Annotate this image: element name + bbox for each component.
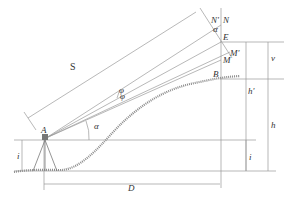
label-phi-2: φ [120,91,125,101]
label-v: v [271,53,275,63]
label-B: B [213,69,219,79]
label-M-prime: M' [229,48,240,58]
label-S: S [70,61,76,72]
label-M: M [222,55,231,65]
tripod-icon [33,134,57,171]
label-alpha-station: α [94,121,99,131]
label-N: N [222,15,230,25]
diagram-canvas: S N' N α E M' M B v h' h i i A α D φ φ [0,0,284,200]
label-h-prime: h' [248,86,256,96]
S-extension-line [24,112,36,130]
alpha-arc [86,121,89,140]
label-D: D [127,183,135,193]
label-i-left: i [17,151,20,161]
label-alpha-top: α [213,24,218,34]
label-E: E [222,32,229,42]
label-A: A [40,125,47,135]
label-i-right: i [249,152,252,162]
ground-profile [14,76,240,172]
label-h: h [271,120,276,130]
sight-line-N [46,25,221,138]
